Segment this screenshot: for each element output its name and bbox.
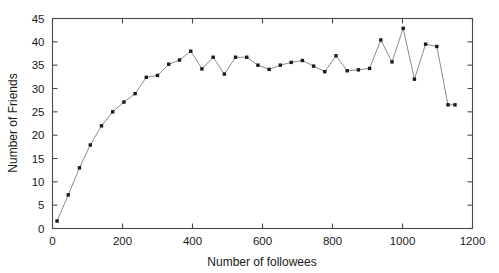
data-point-marker bbox=[78, 166, 81, 169]
data-point-marker bbox=[89, 143, 92, 146]
data-series-number-of-friends bbox=[55, 27, 456, 223]
y-axis-ticks bbox=[53, 19, 473, 229]
data-point-marker bbox=[413, 77, 416, 80]
data-point-marker bbox=[145, 76, 148, 79]
y-tick-label: 45 bbox=[32, 13, 45, 25]
x-axis-ticks bbox=[53, 19, 473, 229]
x-tick-label: 1000 bbox=[390, 235, 416, 247]
data-point-marker bbox=[55, 219, 58, 222]
data-point-marker bbox=[368, 67, 371, 70]
x-tick-label: 0 bbox=[49, 235, 55, 247]
data-point-marker bbox=[211, 56, 214, 59]
x-tick-label: 800 bbox=[323, 235, 342, 247]
data-point-marker bbox=[290, 61, 293, 64]
data-point-marker bbox=[424, 42, 427, 45]
data-point-marker bbox=[435, 45, 438, 48]
data-point-marker bbox=[133, 92, 136, 95]
y-tick-label: 25 bbox=[32, 106, 45, 118]
y-tick-label: 10 bbox=[32, 176, 45, 188]
data-point-marker bbox=[178, 58, 181, 61]
y-axis-title: Number of Friends bbox=[6, 73, 20, 172]
data-point-marker bbox=[390, 60, 393, 63]
line-chart: 051015202530354045 020040060080010001200… bbox=[0, 0, 499, 273]
x-tick-label: 400 bbox=[183, 235, 202, 247]
data-point-marker bbox=[111, 110, 114, 113]
data-point-marker bbox=[156, 74, 159, 77]
plot-frame bbox=[53, 19, 473, 229]
data-point-markers bbox=[55, 27, 456, 223]
y-tick-label: 30 bbox=[32, 83, 45, 95]
y-tick-label: 5 bbox=[38, 199, 44, 211]
data-point-marker bbox=[312, 64, 315, 67]
data-point-marker bbox=[379, 38, 382, 41]
data-point-marker bbox=[189, 49, 192, 52]
data-point-marker bbox=[453, 103, 456, 106]
data-point-marker bbox=[223, 72, 226, 75]
data-point-marker bbox=[346, 69, 349, 72]
y-tick-label: 0 bbox=[38, 223, 44, 235]
x-axis-tick-labels: 020040060080010001200 bbox=[49, 235, 485, 247]
data-point-marker bbox=[67, 193, 70, 196]
x-tick-label: 200 bbox=[113, 235, 132, 247]
data-point-marker bbox=[402, 27, 405, 30]
y-tick-label: 15 bbox=[32, 153, 45, 165]
x-tick-label: 1200 bbox=[460, 235, 486, 247]
data-point-marker bbox=[334, 54, 337, 57]
data-point-marker bbox=[122, 100, 125, 103]
data-point-marker bbox=[301, 59, 304, 62]
chart-figure: 051015202530354045 020040060080010001200… bbox=[0, 0, 499, 273]
data-point-marker bbox=[100, 124, 103, 127]
y-tick-label: 20 bbox=[32, 129, 45, 141]
data-point-marker bbox=[234, 56, 237, 59]
data-point-marker bbox=[245, 56, 248, 59]
y-tick-label: 40 bbox=[32, 36, 45, 48]
data-point-marker bbox=[167, 63, 170, 66]
y-tick-label: 35 bbox=[32, 59, 45, 71]
x-tick-label: 600 bbox=[253, 235, 272, 247]
data-point-marker bbox=[446, 103, 449, 106]
x-axis-title: Number of followees bbox=[207, 255, 316, 269]
data-point-marker bbox=[323, 70, 326, 73]
data-point-marker bbox=[267, 68, 270, 71]
data-point-marker bbox=[256, 63, 259, 66]
y-axis-tick-labels: 051015202530354045 bbox=[32, 13, 45, 235]
data-point-marker bbox=[200, 67, 203, 70]
data-point-marker bbox=[357, 68, 360, 71]
data-point-marker bbox=[279, 63, 282, 66]
